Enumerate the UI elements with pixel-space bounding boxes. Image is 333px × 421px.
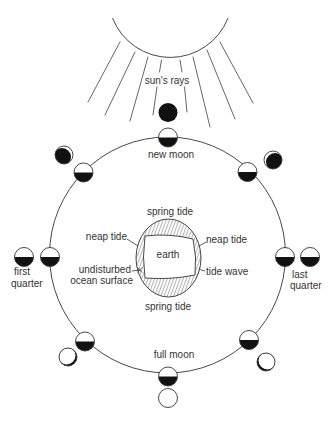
phase-new-moon [159, 103, 178, 122]
neap-tide-left-label: neap tide [86, 231, 128, 242]
neap-tide-right-label: neap tide [206, 234, 248, 245]
orbit-moon-left [41, 248, 60, 267]
ray-5a [180, 60, 182, 72]
phase-full-moon [159, 389, 178, 408]
phase-gibbous-lower-left [58, 347, 78, 367]
orbit-moon-right [276, 248, 295, 267]
ray-7 [207, 50, 235, 119]
undisturbed-label-1: undisturbed [79, 264, 131, 275]
ray-6 [193, 57, 210, 127]
orbit-moon-upper-right [238, 163, 257, 182]
orbit-moon-lower-left [76, 332, 95, 351]
phase-first-quarter [15, 248, 34, 267]
orbit-moon-upper-left [74, 163, 93, 182]
phase-gibbous-lower-right [257, 352, 277, 372]
new-moon-label: new moon [148, 149, 194, 160]
phase-crescent-upper-left [53, 146, 73, 166]
spring-tide-bottom-label: spring tide [145, 301, 192, 312]
full-moon-label: full moon [154, 349, 195, 360]
sun [113, 18, 229, 57]
phase-crescent-upper-right [264, 151, 284, 171]
ray-3 [130, 57, 148, 121]
phase-last-quarter [301, 248, 320, 267]
orbit-moon-lower-right [240, 331, 259, 350]
first-quarter-label-2: quarter [11, 278, 43, 289]
sun-arc [113, 18, 229, 57]
ray-5b [185, 87, 188, 112]
last-quarter-label-2: quarter [290, 280, 322, 291]
leader-neap-left [127, 239, 138, 246]
last-quarter-label-1: last [292, 269, 308, 280]
earth-label: earth [157, 249, 180, 260]
first-quarter-label-1: first [14, 266, 30, 277]
tides-diagram: sun's rays [0, 0, 333, 421]
tide-wave-label: tide wave [206, 266, 249, 277]
undisturbed-label-2: ocean surface [70, 275, 133, 286]
ray-4b [153, 87, 157, 115]
ray-4a [160, 60, 162, 72]
sun-rays-label: sun's rays [145, 75, 190, 86]
orbit-moon-top [159, 128, 178, 147]
orbit-moon-bottom [159, 367, 178, 386]
spring-tide-top-label: spring tide [147, 206, 194, 217]
leader-neap-right [199, 242, 206, 246]
